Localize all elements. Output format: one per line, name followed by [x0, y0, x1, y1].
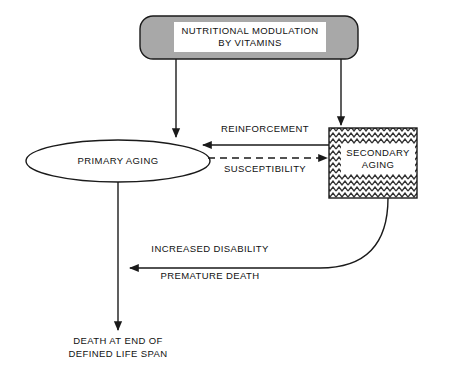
- edge-label-increased-disability: INCREASED DISABILITY: [130, 243, 290, 256]
- edge-increased-disability-premature-death: [130, 198, 388, 268]
- node-nutritional-modulation-label-plate: NUTRITIONAL MODULATIONBY VITAMINS: [174, 22, 326, 52]
- edge-label-reinforcement: REINFORCEMENT: [196, 123, 334, 136]
- aging-flow-diagram: NUTRITIONAL MODULATIONBY VITAMINS SECOND…: [0, 0, 476, 377]
- edge-label-premature-death: PREMATURE DEATH: [130, 270, 290, 283]
- node-secondary-aging-label: SECONDARYAGING: [346, 147, 410, 172]
- edge-label-susceptibility: SUSCEPTIBILITY: [196, 163, 334, 176]
- node-primary-aging: [26, 140, 210, 182]
- node-secondary-aging-label-plate: SECONDARYAGING: [341, 144, 415, 174]
- node-nutritional-modulation-label: NUTRITIONAL MODULATIONBY VITAMINS: [181, 25, 318, 50]
- diagram-canvas: [0, 0, 476, 377]
